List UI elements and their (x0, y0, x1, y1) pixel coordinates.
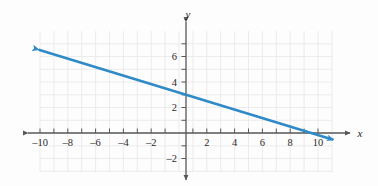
y-axis-label: y (185, 8, 191, 20)
x-tick-label: –6 (89, 137, 101, 148)
graph-figure: –10 –8 –6 –4 –2 2 4 6 8 10 6 4 2 –2 x y (0, 0, 378, 186)
y-tick-label: 4 (172, 77, 178, 88)
x-tick-label: –8 (62, 137, 74, 148)
x-tick-label: 2 (204, 137, 209, 148)
x-tick-label: –10 (31, 137, 48, 148)
x-tick-label: –2 (145, 137, 157, 148)
x-tick-label: 10 (313, 137, 324, 148)
x-tick-label: 8 (288, 137, 293, 148)
y-tick-label: 2 (172, 102, 177, 113)
x-tick-label: 4 (232, 137, 238, 148)
coordinate-plane-chart: –10 –8 –6 –4 –2 2 4 6 8 10 6 4 2 –2 x y (0, 0, 378, 186)
y-tick-label: –2 (166, 153, 178, 164)
x-tick-label: 6 (260, 137, 265, 148)
x-tick-label: –4 (117, 137, 129, 148)
y-tick-label: 6 (172, 51, 177, 62)
x-axis-label: x (357, 127, 363, 139)
